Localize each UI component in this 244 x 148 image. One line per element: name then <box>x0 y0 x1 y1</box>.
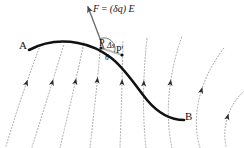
field-line-2-arrowhead <box>49 78 56 86</box>
label-force-equals: = <box>102 3 108 14</box>
label-delta-s: Δs <box>107 42 115 50</box>
label-force-symbol: F <box>93 3 99 14</box>
field-line-1-arrowhead <box>23 79 30 87</box>
label-point-p-prime: P' <box>116 45 123 55</box>
field-line-7 <box>168 36 182 148</box>
label-point-a: A <box>19 40 27 51</box>
field-line-9 <box>225 92 243 146</box>
field-line-4 <box>90 40 101 148</box>
field-line-5-arrowhead <box>119 79 124 86</box>
label-force-field: E <box>129 3 135 14</box>
field-line-3-arrowhead <box>72 78 79 86</box>
label-point-p: P <box>99 38 105 48</box>
label-point-b: B <box>185 111 192 122</box>
diagram-canvas <box>0 0 244 148</box>
field-line-8 <box>196 48 224 148</box>
label-theta: θ <box>105 54 109 62</box>
field-line-arrowheads <box>23 77 231 121</box>
field-line-8-arrowhead <box>198 86 205 94</box>
label-force-charge: (δq) <box>110 3 126 14</box>
field-line-3 <box>60 42 84 148</box>
field-line-6 <box>144 38 148 148</box>
field-line-2 <box>32 44 64 147</box>
field-line-1 <box>6 46 40 146</box>
field-line-9-arrowhead <box>224 113 231 121</box>
electric-field-lines <box>6 36 243 148</box>
electric-field-work-diagram: A B P P' Δs θ F = (δq) E <box>0 0 244 148</box>
label-force-expression: F = (δq) E <box>93 4 135 14</box>
